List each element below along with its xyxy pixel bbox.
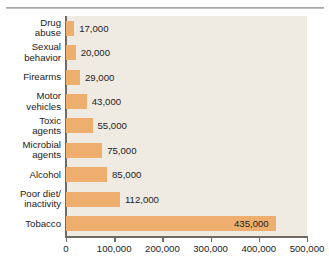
bar-row: Poor diet/inactivity112,000 [0, 187, 329, 211]
bar-value-label: 20,000 [81, 47, 110, 58]
bar-value-label: 55,000 [98, 120, 127, 131]
bar-row: Tobacco435,000 [0, 212, 329, 236]
bar-row: Toxicagents55,000 [0, 114, 329, 138]
category-label-line: Motor [36, 91, 61, 101]
category-label-line: Tobacco [25, 219, 61, 229]
bar-row: Motorvehicles43,000 [0, 89, 329, 113]
bar [66, 192, 120, 207]
bar-row: Microbialagents75,000 [0, 138, 329, 162]
bar [66, 167, 107, 182]
bar-value-label: 112,000 [125, 194, 159, 205]
category-label: Toxicagents [0, 114, 61, 138]
bar-row: Alcohol85,000 [0, 163, 329, 187]
bar-row: Firearms29,000 [0, 65, 329, 89]
x-axis-tick [259, 236, 260, 242]
bar-chart: Drugabuse17,000Sexualbehavior20,000Firea… [0, 0, 329, 264]
bar [66, 21, 74, 36]
category-label-line: behavior [24, 53, 61, 63]
category-label-line: Firearms [23, 72, 61, 82]
bar-container: 112,000 [66, 187, 159, 211]
bar-container: 435,000 [66, 212, 303, 236]
bar-value-label: 29,000 [85, 72, 114, 83]
bar [66, 143, 102, 158]
category-label-line: Alcohol [30, 170, 61, 180]
category-label: Microbialagents [0, 138, 61, 162]
category-label: Alcohol [0, 163, 61, 187]
bar [66, 70, 80, 85]
x-axis-tick [162, 236, 163, 242]
bar-container: 55,000 [66, 114, 127, 138]
bar-row: Drugabuse17,000 [0, 16, 329, 40]
bar-container: 43,000 [66, 89, 121, 113]
bar-value-label: 435,000 [234, 218, 269, 229]
bar [66, 94, 87, 109]
x-axis-tick [114, 236, 115, 242]
category-label: Poor diet/inactivity [0, 187, 61, 211]
category-label: Sexualbehavior [0, 40, 61, 64]
bar-container: 17,000 [66, 16, 109, 40]
x-axis-tick [66, 236, 67, 242]
category-label: Drugabuse [0, 16, 61, 40]
category-label-line: agents [32, 126, 61, 136]
category-label-line: inactivity [24, 199, 61, 209]
x-axis-tick [211, 236, 212, 242]
bar-value-label: 85,000 [112, 169, 141, 180]
bar [66, 118, 93, 133]
category-label: Firearms [0, 65, 61, 89]
x-axis-tick-label: 0 [63, 243, 68, 254]
bar-value-label: 17,000 [79, 23, 108, 34]
x-axis-line [65, 236, 308, 238]
x-axis-tick-label: 400,000 [241, 243, 276, 254]
bar-container: 29,000 [66, 65, 114, 89]
bar [66, 45, 76, 60]
category-label-line: agents [32, 150, 61, 160]
bar-container: 20,000 [66, 40, 110, 64]
category-label-line: vehicles [26, 102, 61, 112]
x-axis-tick-label: 100,000 [97, 243, 132, 254]
bar-row: Sexualbehavior20,000 [0, 40, 329, 64]
x-axis-tick-label: 500,000 [290, 243, 325, 254]
x-axis-tick-label: 300,000 [193, 243, 228, 254]
bar-container: 75,000 [66, 138, 136, 162]
category-label: Motorvehicles [0, 89, 61, 113]
bar-value-label: 43,000 [92, 96, 121, 107]
bar-value-label: 75,000 [107, 145, 136, 156]
category-label-line: abuse [35, 28, 61, 38]
x-axis-tick [307, 236, 308, 242]
category-label: Tobacco [0, 212, 61, 236]
x-axis-tick-label: 200,000 [145, 243, 180, 254]
bar-container: 85,000 [66, 163, 141, 187]
